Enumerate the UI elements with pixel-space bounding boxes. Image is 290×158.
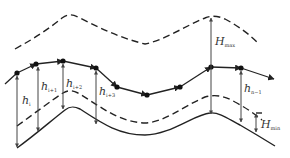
- terrain-following-diagram: hi hi+1 hi+2 hi+3 Hmax hn−1 Hmin: [0, 0, 290, 158]
- waypoint: [238, 65, 243, 70]
- waypoint: [114, 84, 119, 89]
- waypoint: [144, 92, 149, 97]
- terrain-curve: [17, 107, 275, 148]
- waypoint: [177, 84, 182, 89]
- waypoint: [60, 58, 65, 63]
- height-arrows: [17, 18, 262, 147]
- label-h-i1: hi+1: [41, 80, 57, 93]
- label-h-i: hi: [22, 94, 31, 107]
- waypoint: [33, 61, 38, 66]
- label-h-max: Hmax: [214, 35, 235, 48]
- label-h-i2: hi+2: [66, 77, 82, 90]
- label-h-i3: hi+3: [99, 85, 115, 98]
- waypoint: [14, 70, 19, 75]
- label-h-n1: hn−1: [244, 82, 262, 95]
- waypoint: [93, 65, 98, 70]
- labels: hi hi+1 hi+2 hi+3 Hmax hn−1 Hmin: [22, 35, 281, 131]
- label-h-min: Hmin: [260, 118, 281, 131]
- lower-envelope-curve: [17, 91, 262, 126]
